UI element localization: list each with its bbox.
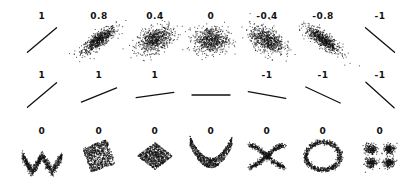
coefficient-label: 0.4 — [135, 11, 175, 21]
scatter-panel — [306, 87, 340, 103]
scatter-panel — [137, 142, 172, 170]
scatter-panel — [303, 139, 343, 172]
scatter-panel — [27, 28, 56, 52]
coefficient-label: -1 — [247, 70, 287, 80]
scatter-panel — [123, 20, 181, 61]
coefficient-label: 0 — [135, 126, 175, 136]
scatter-grid — [0, 0, 414, 184]
coefficient-label: 0 — [191, 126, 231, 136]
coefficient-label: 0 — [22, 126, 62, 136]
coefficient-label: 0 — [247, 126, 287, 136]
coefficient-label: 1 — [135, 70, 175, 80]
scatter-panel — [366, 82, 394, 107]
coefficient-label: 0 — [360, 126, 400, 136]
coefficient-label: 0 — [191, 11, 231, 21]
coefficient-label: 1 — [22, 11, 62, 21]
scatter-panel — [27, 83, 56, 107]
coefficient-label: 0 — [79, 126, 119, 136]
correlation-figure: 10.80.40-0.4-0.8-1111-1-1-10000000 — [0, 0, 414, 184]
coefficient-label: 0 — [303, 126, 343, 136]
coefficient-label: -1 — [303, 70, 343, 80]
scatter-panel — [83, 140, 115, 173]
scatter-panel — [136, 92, 174, 97]
scatter-panel — [81, 88, 116, 102]
coefficient-label: -1 — [360, 70, 400, 80]
scatter-panel — [299, 22, 360, 67]
coefficient-label: -0.8 — [303, 11, 343, 21]
coefficient-label: 1 — [22, 70, 62, 80]
scatter-panel — [363, 142, 398, 173]
coefficient-label: -1 — [360, 11, 400, 21]
scatter-panel — [21, 150, 62, 176]
coefficient-label: -0.4 — [247, 11, 287, 21]
coefficient-label: 1 — [79, 70, 119, 80]
scatter-panel — [182, 22, 236, 60]
coefficient-label: 0.8 — [79, 11, 119, 21]
scatter-panel — [69, 20, 126, 62]
scatter-panel — [248, 142, 287, 171]
scatter-panel — [248, 92, 285, 99]
scatter-panel — [365, 28, 394, 52]
scatter-panel — [189, 136, 232, 168]
